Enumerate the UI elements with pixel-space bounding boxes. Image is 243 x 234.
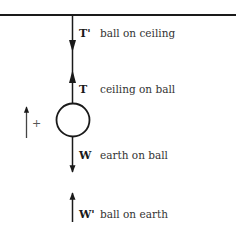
positive-sign-label: + (32, 117, 41, 130)
force-symbol-t: T (79, 83, 88, 96)
force-desc-t: ceiling on ball (100, 83, 176, 95)
force-desc-w: earth on ball (100, 149, 169, 161)
force-desc-t-prime: ball on ceiling (100, 27, 175, 39)
ball (57, 104, 90, 137)
arrow-t-icon (69, 70, 76, 83)
force-diagram: + T' ball on ceiling T ceiling on ball W… (0, 0, 243, 234)
force-symbol-w-prime: W' (78, 208, 95, 221)
force-desc-w-prime: ball on earth (100, 208, 168, 220)
force-symbol-w: W (78, 149, 92, 162)
arrow-t-prime-icon (69, 40, 76, 52)
force-symbol-t-prime: T' (79, 27, 91, 40)
